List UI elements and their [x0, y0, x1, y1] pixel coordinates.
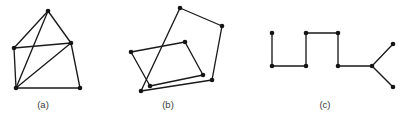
subfigure-c-caption: (c) — [305, 99, 345, 111]
edge-a-right-to-a-bottom-left — [16, 43, 71, 88]
edge-b-q2-bottom-to-b-q2-left — [131, 52, 150, 86]
edge-a-left-to-a-bottom-left — [14, 48, 16, 88]
vertex-c-v6 — [336, 64, 341, 69]
vertex-c-v7 — [370, 64, 375, 69]
edge-b-q2-right-to-b-q2-bottom — [150, 75, 203, 86]
vertex-a-right — [69, 41, 74, 46]
edge-c-v7-to-c-v8 — [372, 44, 393, 66]
edge-a-left-to-a-right — [14, 43, 71, 48]
vertex-c-v5 — [336, 31, 341, 36]
subfigure-c-edges — [272, 33, 393, 87]
edge-c-v7-to-c-v9 — [372, 66, 393, 87]
edge-b-q2-left-to-b-q2-top — [131, 42, 185, 52]
vertex-c-v8 — [391, 42, 396, 47]
vertex-b-q1-bottom — [210, 78, 215, 83]
vertex-b-q2-bottom — [148, 84, 153, 89]
subfigure-b-caption: (b) — [148, 99, 188, 111]
edge-a-apex-to-a-bottom-left — [16, 11, 48, 88]
subfigure-b-graph — [129, 6, 225, 94]
subfigure-b-edges — [131, 8, 222, 91]
vertex-a-apex — [46, 9, 51, 14]
subfigure-c-vertices — [270, 31, 396, 90]
vertex-b-q1-left — [139, 89, 144, 94]
edge-b-q1-top-to-b-q1-right — [180, 8, 222, 26]
edge-a-right-to-a-bottom-right — [71, 43, 80, 88]
edge-a-apex-to-a-left — [14, 11, 48, 48]
vertex-b-q1-right — [220, 24, 225, 29]
edge-b-q2-top-to-b-q2-right — [185, 42, 203, 75]
vertex-a-bottom-left — [14, 86, 19, 91]
edge-a-apex-to-a-right — [48, 11, 71, 43]
vertex-c-v4 — [304, 31, 309, 36]
vertex-c-v3 — [304, 64, 309, 69]
subfigure-a-edges — [14, 11, 80, 88]
subfigure-a-caption: (a) — [23, 99, 63, 111]
vertex-c-v1 — [270, 31, 275, 36]
subfigure-c-graph — [270, 31, 396, 90]
subfigure-a-graph — [12, 9, 83, 91]
vertex-c-v2 — [270, 64, 275, 69]
vertex-b-q2-left — [129, 50, 134, 55]
vertex-b-q2-top — [183, 40, 188, 45]
vertex-c-v9 — [391, 85, 396, 90]
vertex-b-q2-right — [201, 73, 206, 78]
vertex-a-left — [12, 46, 17, 51]
figure-panel: (a) (b) (c) — [0, 0, 403, 120]
vertex-a-bottom-right — [78, 86, 83, 91]
edge-b-q1-right-to-b-q1-bottom — [212, 26, 222, 80]
vertex-b-q1-top — [178, 6, 183, 11]
